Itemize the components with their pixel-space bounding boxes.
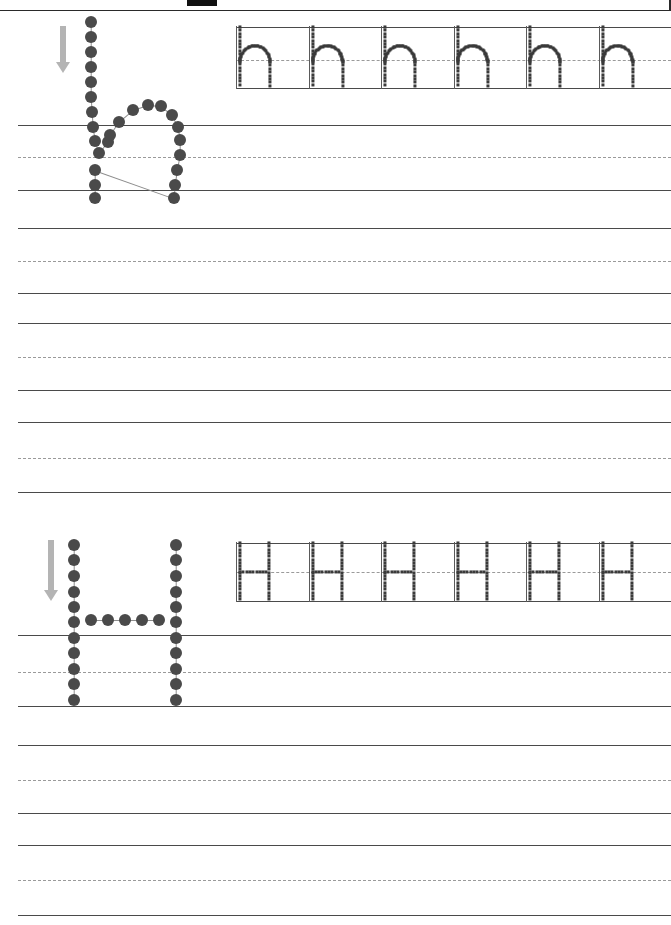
model-stroke-dot xyxy=(168,192,180,204)
letter-cell-separator xyxy=(309,542,310,602)
model-stroke-dot xyxy=(169,179,181,191)
model-stroke-dot xyxy=(87,121,99,133)
trace-dot xyxy=(528,83,531,86)
model-stroke-dot xyxy=(119,614,131,626)
model-stroke-dot xyxy=(68,678,80,690)
model-stroke-dot xyxy=(170,647,182,659)
model-stroke-dot xyxy=(170,616,182,628)
model-stroke-dot xyxy=(85,91,97,103)
model-stroke-dot xyxy=(172,121,184,133)
trace-band-uppercase-h[interactable] xyxy=(236,520,671,620)
trace-dot xyxy=(485,598,488,601)
trace-dot xyxy=(627,570,630,573)
trace-dot xyxy=(265,570,268,573)
model-stroke-dot xyxy=(127,104,139,116)
model-stroke-dot xyxy=(68,632,80,644)
ruled-line-top xyxy=(18,422,671,423)
trace-dot xyxy=(557,598,560,601)
model-stroke-dot xyxy=(170,632,182,644)
model-stroke-dot xyxy=(170,554,182,566)
model-stroke-dot xyxy=(174,149,186,161)
letter-cell-separator xyxy=(526,26,527,89)
ruled-line-mid xyxy=(18,458,671,459)
model-stroke-dot xyxy=(85,76,97,88)
arrow-head xyxy=(56,62,70,73)
trace-dot xyxy=(456,598,459,601)
model-stroke-dot xyxy=(89,179,101,191)
trace-dot xyxy=(311,598,314,601)
model-stroke-dot xyxy=(170,694,182,706)
trace-dot xyxy=(630,598,633,601)
trace-dot xyxy=(601,83,604,86)
letter-cell-separator xyxy=(599,542,600,602)
trace-dot xyxy=(383,598,386,601)
model-stroke-dot xyxy=(102,614,114,626)
trace-dot xyxy=(528,598,531,601)
model-letter-panel-uppercase-h xyxy=(0,520,230,720)
model-stroke-dot xyxy=(86,106,98,118)
trace-band-lowercase-h[interactable] xyxy=(236,0,671,100)
trace-dot xyxy=(456,83,459,86)
arrow-shaft xyxy=(48,540,54,590)
model-stroke-dot xyxy=(85,16,97,28)
ruled-line-top xyxy=(18,845,671,846)
model-letter-panel-lowercase-h xyxy=(0,0,230,215)
letter-cell-separator xyxy=(381,26,382,89)
trace-dot xyxy=(340,598,343,601)
model-stroke-dot xyxy=(170,586,182,598)
model-stroke-dot xyxy=(85,46,97,58)
trace-dot xyxy=(555,570,558,573)
model-stroke-dot xyxy=(85,614,97,626)
trace-dot xyxy=(558,84,561,87)
model-stroke-dot xyxy=(68,586,80,598)
model-stroke-dot xyxy=(68,570,80,582)
ruled-line-bottom xyxy=(18,492,671,493)
arrow-head xyxy=(44,590,58,601)
model-stroke-dot xyxy=(93,147,105,159)
trace-dot xyxy=(311,83,314,86)
ruled-line-mid xyxy=(18,880,671,881)
model-stroke-dot xyxy=(89,164,101,176)
model-stroke-dot xyxy=(85,61,97,73)
model-stroke-dot xyxy=(136,614,148,626)
letter-cell-separator xyxy=(236,542,237,602)
arrow-shaft xyxy=(60,26,66,62)
model-stroke-dot xyxy=(113,116,125,128)
model-stroke-dot xyxy=(89,192,101,204)
trace-dot xyxy=(631,84,634,87)
model-stroke-dot xyxy=(68,616,80,628)
stroke-direction-arrow-icon xyxy=(56,26,70,73)
model-stroke-dot xyxy=(68,647,80,659)
trace-dot xyxy=(341,84,344,87)
stroke-direction-arrow-icon xyxy=(44,540,58,601)
model-stroke-dot xyxy=(166,109,178,121)
model-stroke-dot xyxy=(89,135,101,147)
model-stroke-dot xyxy=(153,614,165,626)
model-stroke-dot xyxy=(155,100,167,112)
model-stroke-dot xyxy=(170,663,182,675)
model-stroke-dot xyxy=(85,31,97,43)
trace-dot xyxy=(383,83,386,86)
worksheet-page xyxy=(0,0,671,925)
model-stroke-dot xyxy=(170,570,182,582)
model-stroke-dot xyxy=(68,663,80,675)
model-stroke-dot xyxy=(68,601,80,613)
trace-dot xyxy=(601,598,604,601)
letter-cell-separator xyxy=(454,542,455,602)
model-stroke-dot xyxy=(104,129,116,141)
letter-cell-separator xyxy=(309,26,310,89)
model-stroke-dot xyxy=(171,164,183,176)
trace-dot xyxy=(413,84,416,87)
ruled-line-top xyxy=(18,228,671,229)
trace-dot xyxy=(482,570,485,573)
model-stroke-dot xyxy=(170,539,182,551)
trace-dot xyxy=(486,84,489,87)
ruled-line-bottom xyxy=(18,915,671,916)
model-stroke-dot xyxy=(68,554,80,566)
model-stroke-dot xyxy=(68,694,80,706)
trace-dot xyxy=(410,570,413,573)
model-stroke-dot xyxy=(68,539,80,551)
letter-cell-separator xyxy=(236,26,237,89)
trace-dot xyxy=(268,84,271,87)
letter-cell-separator xyxy=(599,26,600,89)
